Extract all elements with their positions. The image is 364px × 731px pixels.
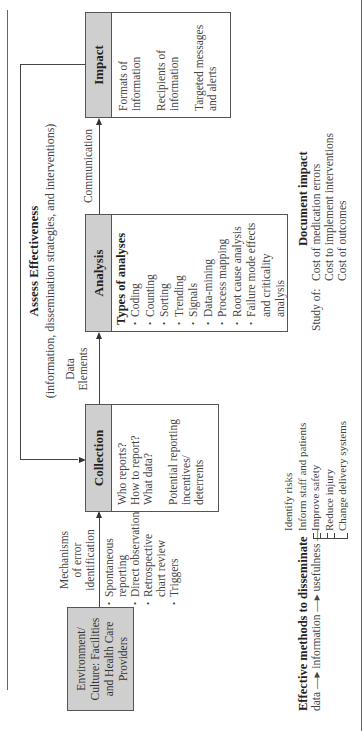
collection-box: Collection Who reports? How to report? W…: [85, 404, 219, 512]
outcome-item: Reduce injury: [323, 391, 337, 531]
document-impact-section: Document impact Study of: Cost of medica…: [296, 31, 349, 331]
analysis-item: Counting: [143, 219, 158, 325]
mechanism-item: Spontaneous reporting: [103, 509, 129, 605]
feedback-loop-line: [20, 64, 21, 460]
outcome-bracket-top: [313, 533, 314, 539]
outcome-bracket-b3: [327, 533, 328, 539]
impact-box: Impact Formats of information Recipients…: [85, 12, 231, 118]
mechanism-item: Triggers: [168, 509, 181, 605]
collection-to-analysis-line: [99, 334, 100, 404]
mechanism-item: Direct observation: [129, 509, 142, 605]
flow-arrow-icon: —▸: [310, 594, 322, 611]
analysis-item: Signals: [186, 219, 201, 325]
analysis-item: Coding: [128, 219, 143, 325]
analysis-item: Data-mining: [201, 219, 216, 325]
outcome-bracket-b4: [334, 533, 335, 539]
mechanisms-heading: Mechanisms of error identification: [58, 515, 97, 605]
mechanisms-list: Spontaneous reporting Direct observation…: [103, 509, 181, 605]
impact-item: Recipients of information: [155, 17, 181, 111]
document-impact-prefix: Study of:: [310, 289, 323, 332]
environment-culture-box: Environment/ Culture: Facilities and Hea…: [67, 607, 134, 711]
analysis-list: Coding Counting Sorting Trending Signals…: [128, 219, 288, 325]
top-rule: [7, 10, 8, 690]
analysis-subheader: Types of analyses: [115, 219, 128, 325]
document-impact-heading: Document impact: [296, 31, 310, 331]
analysis-body: Types of analyses Coding Counting Sortin…: [115, 219, 288, 325]
collection-note: Potential reporting incentives/ deterren…: [167, 409, 206, 505]
environment-culture-label: Environment/ Culture: Facilities and Hea…: [75, 618, 129, 701]
collection-body: Who reports? How to report? What data? P…: [116, 409, 206, 505]
feedback-loop-rise-impact: [20, 64, 85, 65]
arrow-collection-to-analysis-icon: [96, 332, 102, 339]
analysis-item: Trending: [172, 219, 187, 325]
impact-item: Targeted messages and alerts: [193, 17, 219, 111]
assess-effectiveness-heading: Assess Effectiveness: [26, 71, 42, 451]
outcome-bracket-bottom: [347, 533, 348, 539]
outcome-item: Identify risks: [282, 391, 296, 531]
feedback-loop-drop-collection: [20, 459, 78, 460]
outcome-item: Inform staff and patients: [296, 391, 310, 531]
outcomes-list: Identify risks Inform staff and patients…: [282, 391, 350, 531]
analysis-header: Analysis: [86, 215, 112, 331]
env-to-collection-line: [99, 514, 100, 607]
outcome-item: Improve safety: [309, 391, 323, 531]
outcome-bracket-line: [313, 538, 348, 539]
document-impact-item: Cost of outcomes: [336, 31, 349, 281]
impact-item: Formats of information: [117, 17, 143, 111]
impact-body: Formats of information Recipients of inf…: [117, 17, 219, 111]
outcome-bracket-b2: [320, 533, 321, 539]
analysis-to-impact-line: [99, 120, 100, 214]
arrow-analysis-to-impact-icon: [96, 118, 102, 125]
mechanism-item: Retrospective chart review: [142, 509, 168, 605]
analysis-item: Root cause analysis: [230, 219, 245, 325]
analysis-box: Analysis Types of analyses Coding Counti…: [85, 214, 288, 332]
document-impact-item: Cost of medication errors: [310, 31, 323, 281]
bottom-rule: [361, 0, 362, 731]
flow-arrow-icon: —▸: [310, 672, 322, 689]
analysis-item: Sorting: [157, 219, 172, 325]
outcome-item: Change delivery systems: [336, 391, 350, 531]
document-impact-item: Cost to implement interventions: [323, 31, 336, 281]
analysis-item: Failure mode effects and criticality ana…: [244, 219, 288, 325]
assess-effectiveness-title: Assess Effectiveness (information, disse…: [26, 71, 58, 451]
analysis-item: Process mapping: [215, 219, 230, 325]
data-elements-label: Data Elements: [64, 339, 90, 399]
communication-label: Communication: [82, 126, 95, 206]
impact-header: Impact: [86, 13, 112, 117]
collection-header: Collection: [86, 405, 112, 511]
diagram-canvas: Assess Effectiveness (information, disse…: [0, 0, 364, 731]
assess-effectiveness-subheading: (information, dissemination strategies, …: [43, 71, 58, 451]
